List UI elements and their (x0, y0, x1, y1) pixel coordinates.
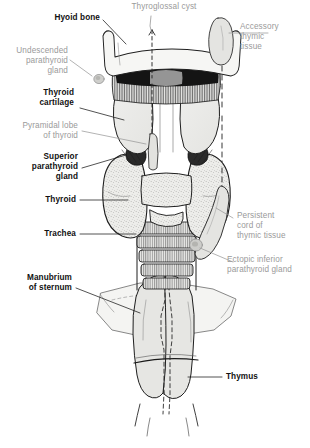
label-thyroid-cartilage: Thyroid cartilage (6, 88, 74, 108)
ectopic-inferior-parathyroid-gland (190, 239, 203, 251)
label-thymus: Thymus (226, 372, 296, 382)
label-hyoid-bone: Hyoid bone (8, 13, 100, 23)
label-undescended-parathyroid-gland: Undescended parathyroid gland (2, 46, 68, 77)
label-thyroid: Thyroid (14, 195, 76, 205)
trachea (137, 222, 196, 290)
label-trachea: Trachea (14, 229, 76, 239)
label-accessory-thymic-tissue: Accessory thymic tissue (240, 22, 306, 53)
anatomy-figure: Thyroglossal cyst Hyoid bone Accessory t… (0, 0, 310, 448)
label-thyroglossal-cyst: Thyroglossal cyst (118, 2, 210, 12)
label-persistent-cord-of-thymic-tissue: Persistent cord of thymic tissue (237, 211, 309, 242)
label-ectopic-inferior-parathyroid-gland: Ectopic inferior parathyroid gland (227, 255, 309, 275)
pyramidal-lobe-of-thyroid (148, 134, 158, 171)
thymus (133, 274, 198, 436)
label-manubrium-of-sternum: Manubrium of sternum (2, 273, 72, 293)
label-pyramidal-lobe-of-thyroid: Pyramidal lobe of thyroid (2, 121, 78, 141)
label-superior-parathyroid-gland: Superior parathyroid gland (4, 152, 78, 183)
undescended-parathyroid-gland (94, 74, 104, 83)
